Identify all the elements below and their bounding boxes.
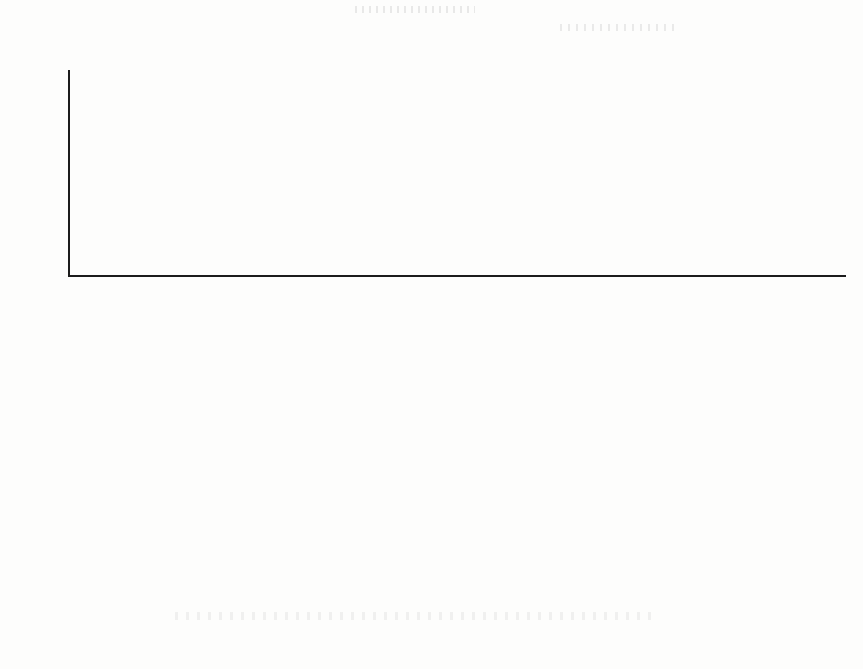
x-axis-category-labels	[68, 281, 846, 641]
scan-artifact	[560, 24, 675, 31]
y-axis-tick-labels	[0, 0, 68, 346]
scan-artifact	[355, 6, 475, 13]
bar-series-group	[68, 70, 846, 276]
bar-chart	[0, 0, 863, 669]
